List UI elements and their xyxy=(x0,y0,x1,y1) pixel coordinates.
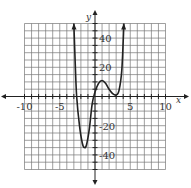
x-tick-label: -5 xyxy=(55,101,65,112)
x-tick-label: -10 xyxy=(16,101,32,112)
x-tick-label: 5 xyxy=(127,101,133,112)
y-axis-arrow-down-icon xyxy=(93,180,98,185)
y-tick-label: -20 xyxy=(99,121,115,132)
y-tick-label: 20 xyxy=(99,62,112,73)
y-tick-label: -40 xyxy=(99,150,115,161)
curve-arrows xyxy=(72,24,127,30)
x-axis-arrow-right-icon xyxy=(184,94,189,99)
curve-arrow-icon xyxy=(121,24,126,30)
x-axis-label: x xyxy=(176,95,181,105)
axes xyxy=(1,10,189,185)
y-axis-arrow-up-icon xyxy=(93,10,98,15)
x-axis-arrow-left-icon xyxy=(1,94,6,99)
function-graph: -10-55104020-20-40 x y xyxy=(0,0,191,188)
y-tick-label: 40 xyxy=(99,33,112,44)
curve-arrow-icon xyxy=(72,24,77,30)
x-tick-label: 10 xyxy=(159,101,172,112)
y-axis-label: y xyxy=(85,12,92,22)
